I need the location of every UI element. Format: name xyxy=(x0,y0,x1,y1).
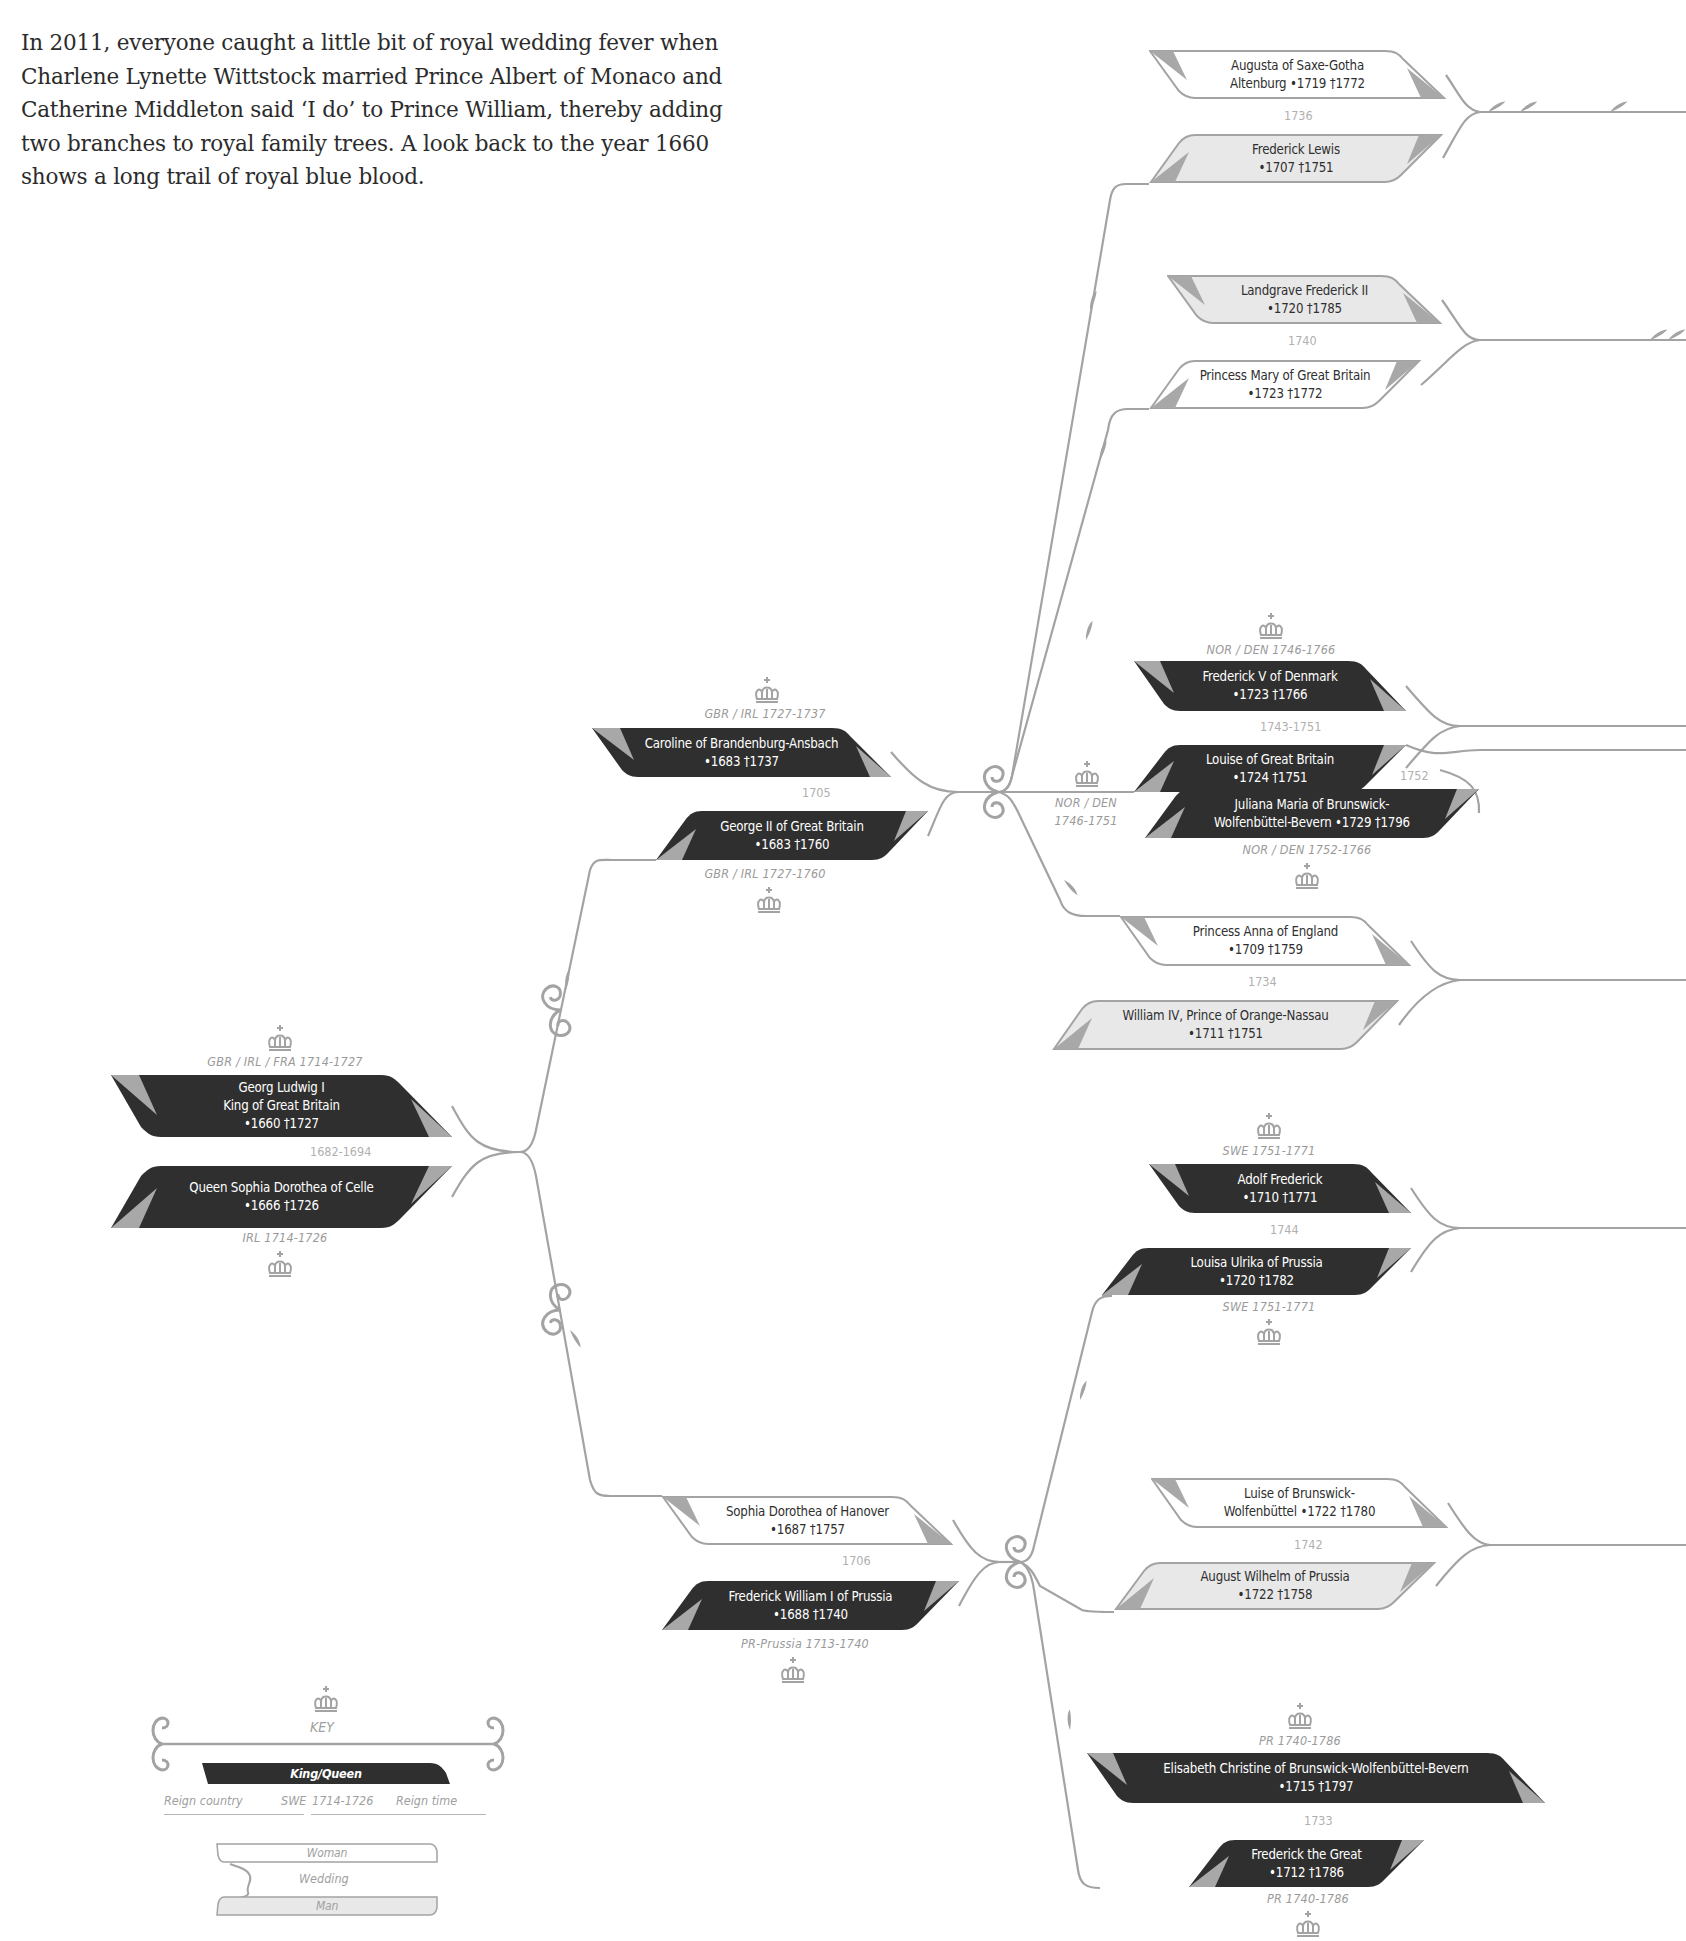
person-dates: •1724 †1751 xyxy=(1229,769,1312,787)
person-box-sophia-dorothea-of-hanover[interactable]: Sophia Dorothea of Hanover •1687 †1757 xyxy=(662,1496,953,1545)
legend-royal-label: King/Queen xyxy=(286,1765,366,1783)
person-box-frederick-lewis[interactable]: Frederick Lewis •1707 †1751 xyxy=(1149,134,1443,183)
person-box-frederick-v-of-denmark[interactable]: Frederick V of Denmark •1723 †1766 xyxy=(1134,661,1406,711)
person-name: Luise of Brunswick- xyxy=(1240,1485,1359,1503)
reign-label: PR-Prussia 1713-1740 xyxy=(680,1636,930,1651)
reign-label: PR 1740-1786 xyxy=(1175,1733,1425,1748)
crown-icon xyxy=(263,1250,297,1280)
person-name: Elisabeth Christine of Brunswick-Wolfenb… xyxy=(1159,1760,1472,1778)
person-box-august-wilhelm-of-prussia[interactable]: August Wilhelm of Prussia •1722 †1758 xyxy=(1114,1562,1436,1610)
person-dates: •1710 †1771 xyxy=(1239,1189,1322,1207)
person-box-princess-anna-of-england[interactable]: Princess Anna of England •1709 †1759 xyxy=(1120,916,1411,966)
wedding-year: 1682-1694 xyxy=(310,1144,371,1159)
legend-wedding-label: Wedding xyxy=(299,1871,349,1886)
person-name: Queen Sophia Dorothea of Celle xyxy=(185,1179,377,1197)
person-name: Louise of Great Britain xyxy=(1202,751,1338,769)
wedding-year: 1743-1751 xyxy=(1260,719,1321,734)
reign-label: GBR / IRL 1727-1760 xyxy=(640,866,890,881)
legend-woman-swatch: Woman xyxy=(216,1843,438,1863)
person-name: Frederick the Great xyxy=(1247,1846,1365,1864)
person-box-augusta-of-saxe-gotha[interactable]: Augusta of Saxe-Gotha Altenburg •1719 †1… xyxy=(1149,50,1446,99)
person-dates: Wolfenbüttel-Bevern •1729 †1796 xyxy=(1210,814,1414,832)
person-dates: •1720 †1782 xyxy=(1215,1272,1298,1290)
reign-label: NOR / DEN 1752-1766 xyxy=(1182,842,1432,857)
person-dates: •1715 †1797 xyxy=(1275,1778,1358,1796)
crown-icon xyxy=(1252,1318,1286,1348)
reign-label: IRL 1714-1726 xyxy=(160,1230,410,1245)
person-box-luise-of-brunswick-wolfenbuttel[interactable]: Luise of Brunswick- Wolfenbüttel •1722 †… xyxy=(1151,1478,1448,1528)
reign-label: SWE 1751-1771 xyxy=(1144,1299,1394,1314)
person-dates: •1683 †1737 xyxy=(700,753,783,771)
person-dates: •1707 †1751 xyxy=(1255,159,1338,177)
person-box-frederick-the-great[interactable]: Frederick the Great •1712 †1786 xyxy=(1189,1840,1424,1887)
crown-icon xyxy=(1290,862,1324,892)
crown-icon xyxy=(263,1024,297,1054)
crown-icon xyxy=(309,1685,343,1715)
person-name: Sophia Dorothea of Hanover xyxy=(722,1503,893,1521)
person-dates: •1723 †1772 xyxy=(1244,385,1327,403)
person-name: Louisa Ulrika of Prussia xyxy=(1186,1254,1326,1272)
wedding-year: 1742 xyxy=(1294,1537,1323,1552)
reign-label: 1746-1751 xyxy=(1036,813,1136,828)
person-box-princess-mary-of-great-britain[interactable]: Princess Mary of Great Britain •1723 †17… xyxy=(1149,360,1421,409)
wedding-year: 1706 xyxy=(842,1553,871,1568)
person-name: Landgrave Frederick II xyxy=(1237,282,1372,300)
crown-icon xyxy=(1070,760,1104,790)
person-dates: Wolfenbüttel •1722 †1780 xyxy=(1220,1503,1380,1521)
person-box-frederick-william-i-of-prussia[interactable]: Frederick William I of Prussia •1688 †17… xyxy=(662,1581,959,1630)
reign-label: NOR / DEN 1746-1766 xyxy=(1146,642,1396,657)
person-box-georg-ludwig-i[interactable]: Georg Ludwig I King of Great Britain •16… xyxy=(111,1075,452,1137)
person-name: William IV, Prince of Orange-Nassau xyxy=(1118,1007,1332,1025)
person-dates: •1712 †1786 xyxy=(1265,1864,1348,1882)
person-box-landgrave-frederick-ii[interactable]: Landgrave Frederick II •1720 †1785 xyxy=(1167,275,1442,324)
person-box-louisa-ulrika-of-prussia[interactable]: Louisa Ulrika of Prussia •1720 †1782 xyxy=(1102,1248,1411,1295)
reign-label: GBR / IRL / FRA 1714-1727 xyxy=(160,1054,410,1069)
person-name: Princess Anna of England xyxy=(1189,923,1342,941)
legend-time-example: 1714-1726 xyxy=(312,1793,373,1808)
crown-icon xyxy=(750,676,784,706)
person-name: Frederick Lewis xyxy=(1248,141,1344,159)
reign-label: GBR / IRL 1727-1737 xyxy=(640,706,890,721)
person-box-elisabeth-christine[interactable]: Elisabeth Christine of Brunswick-Wolfenb… xyxy=(1087,1753,1545,1803)
person-dates: •1683 †1760 xyxy=(751,836,834,854)
wedding-year: 1734 xyxy=(1248,974,1277,989)
person-dates: •1660 †1727 xyxy=(240,1115,323,1133)
legend-country-example: SWE xyxy=(281,1793,306,1808)
person-box-caroline-of-brandenburg-ansbach[interactable]: Caroline of Brandenburg-Ansbach •1683 †1… xyxy=(592,728,891,777)
person-box-adolf-frederick[interactable]: Adolf Frederick •1710 †1771 xyxy=(1149,1164,1411,1213)
legend-woman-label: Woman xyxy=(303,1844,351,1862)
person-name: George II of Great Britain xyxy=(716,818,868,836)
person-box-louise-of-great-britain[interactable]: Louise of Great Britain •1724 †1751 xyxy=(1134,745,1406,792)
person-dates: •1688 †1740 xyxy=(769,1606,852,1624)
legend-man-swatch: Man xyxy=(216,1896,438,1916)
person-name: Caroline of Brandenburg-Ansbach xyxy=(641,735,843,753)
person-name: Augusta of Saxe-Gotha xyxy=(1227,57,1368,75)
legend-underline xyxy=(164,1814,304,1815)
person-name: Juliana Maria of Brunswick- xyxy=(1231,796,1394,814)
person-dates: •1687 †1757 xyxy=(766,1521,849,1539)
person-dates: •1723 †1766 xyxy=(1229,686,1312,704)
person-name: Georg Ludwig I xyxy=(234,1079,328,1097)
person-dates: •1720 †1785 xyxy=(1263,300,1346,318)
legend-man-label: Man xyxy=(312,1897,342,1915)
person-box-juliana-maria-of-brunswick[interactable]: Juliana Maria of Brunswick- Wolfenbüttel… xyxy=(1145,789,1479,838)
person-name: Princess Mary of Great Britain xyxy=(1196,367,1375,385)
wedding-year: 1705 xyxy=(802,785,831,800)
second-wedding-year: 1752 xyxy=(1400,768,1429,783)
reign-label: NOR / DEN xyxy=(1036,795,1136,810)
person-box-sophia-dorothea-of-celle[interactable]: Queen Sophia Dorothea of Celle •1666 †17… xyxy=(111,1166,452,1228)
person-dates: •1711 †1751 xyxy=(1184,1025,1267,1043)
crown-icon xyxy=(1291,1910,1325,1940)
legend-underline xyxy=(311,1814,486,1815)
person-name: Adolf Frederick xyxy=(1233,1171,1326,1189)
person-dates: •1666 †1726 xyxy=(240,1197,323,1215)
person-box-william-iv-prince-of-orange-nassau[interactable]: William IV, Prince of Orange-Nassau •171… xyxy=(1052,1000,1399,1050)
crown-icon xyxy=(1254,612,1288,642)
person-box-george-ii-of-great-britain[interactable]: George II of Great Britain •1683 †1760 xyxy=(656,811,928,860)
person-dates: •1722 †1758 xyxy=(1234,1586,1317,1604)
legend-royal-swatch: King/Queen xyxy=(202,1763,450,1784)
person-title: King of Great Britain xyxy=(219,1097,344,1115)
legend-reign-time-label: Reign time xyxy=(396,1793,457,1808)
crown-icon xyxy=(776,1656,810,1686)
crown-icon xyxy=(1252,1112,1286,1142)
